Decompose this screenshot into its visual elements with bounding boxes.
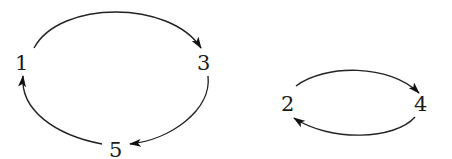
cycle-2-4: 2 4 bbox=[281, 70, 427, 135]
edge-3-to-5 bbox=[130, 76, 208, 144]
edge-5-to-1 bbox=[23, 76, 102, 144]
node-1-label: 1 bbox=[15, 51, 28, 75]
node-5-label: 5 bbox=[109, 138, 122, 159]
edge-4-to-2 bbox=[294, 117, 415, 135]
edge-2-to-4 bbox=[296, 70, 419, 93]
edge-1-to-3 bbox=[34, 12, 201, 48]
node-2-label: 2 bbox=[281, 92, 294, 116]
cycle-diagram: 1 3 5 2 4 bbox=[0, 0, 452, 159]
node-4-label: 4 bbox=[414, 92, 427, 116]
node-3-label: 3 bbox=[197, 51, 210, 75]
cycle-1-3-5: 1 3 5 bbox=[15, 12, 210, 159]
